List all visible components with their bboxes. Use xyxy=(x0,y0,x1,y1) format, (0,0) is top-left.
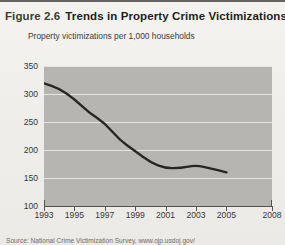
x-axis-line xyxy=(44,206,272,207)
x-tick-label: 1995 xyxy=(57,210,91,220)
y-tick-label: 300 xyxy=(4,89,38,99)
x-tick-label: 2005 xyxy=(209,210,243,220)
x-tick-label: 1993 xyxy=(27,210,61,220)
y-tick-label: 200 xyxy=(4,145,38,155)
y-tick-label: 150 xyxy=(4,173,38,183)
y-tick-label: 250 xyxy=(4,117,38,127)
source-note: Source: National Crime Victimization Sur… xyxy=(6,237,281,245)
chart-area: 100150200250300350 199319951997199920012… xyxy=(0,0,285,245)
x-tick-label: 2001 xyxy=(149,210,183,220)
x-tick-label: 2008 xyxy=(255,210,285,220)
x-tick-label: 1999 xyxy=(118,210,152,220)
data-line xyxy=(44,66,272,206)
x-tick-label: 2003 xyxy=(179,210,213,220)
y-tick-label: 350 xyxy=(4,61,38,71)
x-tick-label: 1997 xyxy=(88,210,122,220)
series-path xyxy=(44,83,226,172)
